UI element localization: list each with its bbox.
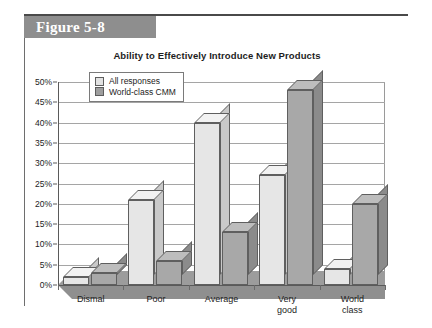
bar-side [313,70,323,275]
bar [324,269,350,285]
x-axis-category-label: World class [341,294,364,316]
chart-title: Ability to Effectively Introduce New Pro… [25,50,409,61]
bar-face [352,204,378,285]
y-axis-tick-label: 45% [35,97,52,107]
bar-face [194,123,220,285]
bar-face [222,232,248,285]
y-axis-tick-label: 0% [40,280,52,290]
bar [352,204,378,285]
legend-label: World-class CMM [109,87,176,98]
bar [259,175,285,285]
x-axis-line [58,285,385,286]
y-axis-tick [53,122,57,123]
bar [91,273,117,285]
x-axis-category-label: Very good [277,294,297,316]
x-axis-tick [189,285,190,290]
x-axis-labels: DismalPoorAverageVery goodWorld class [58,290,385,324]
bar [287,90,313,285]
y-axis-tick-label: 35% [35,138,52,148]
bar [222,232,248,285]
plot-area [58,82,385,285]
x-axis-tick [123,285,124,290]
y-axis-tick [53,203,57,204]
bar-face [287,90,313,285]
y-axis-tick [53,142,57,143]
y-axis-labels: 0%5%10%15%20%25%30%35%40%45%50% [25,82,56,285]
figure-number-banner: Figure 5-8 [24,16,156,38]
bar-face [63,277,89,285]
x-axis-tick [385,285,386,290]
figure-page: Figure 5-8 Ability to Effectively Introd… [0,0,432,328]
bar [156,261,182,285]
bar [63,277,89,285]
y-axis-tick-label: 50% [35,77,52,87]
x-axis-category-label: Poor [147,294,166,305]
x-axis-tick [58,285,59,290]
y-axis-tick [53,102,57,103]
legend-item: World-class CMM [95,87,176,98]
bar [128,200,154,285]
y-axis-tick-label: 5% [40,260,52,270]
y-axis-tick [53,264,57,265]
legend-label: All responses [109,76,160,87]
y-axis-tick-label: 25% [35,179,52,189]
bar-face [128,200,154,285]
y-axis-tick-label: 15% [35,219,52,229]
bar-face [259,175,285,285]
y-axis-line [58,82,59,285]
x-axis-category-label: Average [205,294,238,305]
y-axis-tick [53,183,57,184]
x-axis-tick [320,285,321,290]
legend-swatch [95,87,104,96]
chart-frame: Ability to Effectively Introduce New Pro… [24,38,409,306]
y-axis-tick [53,82,57,83]
legend-item: All responses [95,76,176,87]
y-axis-tick-label: 40% [35,118,52,128]
y-axis-tick-label: 30% [35,158,52,168]
y-axis-tick [53,163,57,164]
x-axis-category-label: Dismal [77,294,105,305]
figure-number-label: Figure 5-8 [24,19,105,36]
bar-face [156,261,182,285]
bar-face [91,273,117,285]
x-axis-tick [254,285,255,290]
y-axis-tick [53,285,57,286]
bar-face [324,269,350,285]
y-axis-tick-label: 10% [35,239,52,249]
legend-swatch [95,77,104,86]
bar [194,123,220,285]
y-axis-tick [53,244,57,245]
y-axis-tick [53,224,57,225]
y-axis-tick-label: 20% [35,199,52,209]
chart-legend: All responsesWorld-class CMM [89,72,184,102]
gridline [58,102,385,103]
